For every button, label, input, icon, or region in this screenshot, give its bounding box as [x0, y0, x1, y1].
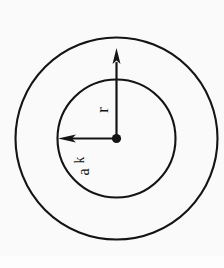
- label-r: r: [93, 107, 112, 113]
- center-point: [112, 134, 121, 143]
- radius-arrow-up: [113, 48, 121, 139]
- concentric-circles-diagram: r a k: [0, 0, 224, 268]
- radius-arrow-left: [58, 135, 117, 143]
- label-a-k: a k: [72, 156, 92, 175]
- label-a-base: a: [75, 168, 92, 175]
- label-a-subscript-k: k: [72, 156, 87, 163]
- figure-container: r a k: [0, 0, 224, 268]
- radius-arrow-up-head: [113, 48, 121, 64]
